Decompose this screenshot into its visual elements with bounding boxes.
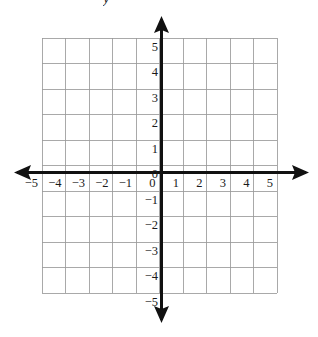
y-tick-label: 3 xyxy=(152,91,158,105)
y-tick-label: 1 xyxy=(152,142,158,156)
y-tick-label: −2 xyxy=(145,218,158,232)
y-axis-label-clipped: y xyxy=(103,0,125,7)
y-tick-label: −5 xyxy=(145,295,158,309)
x-tick-label: 3 xyxy=(220,176,226,190)
x-tick-label: −5 xyxy=(25,176,38,190)
x-tick-label: 5 xyxy=(267,176,273,190)
y-tick-label: 5 xyxy=(152,40,158,54)
x-tick-label: −2 xyxy=(95,176,108,190)
axes-group xyxy=(14,16,309,323)
y-tick-label: −3 xyxy=(145,244,158,258)
y-tick-label: −1 xyxy=(145,193,158,207)
x-axis-tick-labels: −5−4−3−2−1012345 xyxy=(25,176,273,190)
y-tick-label: −4 xyxy=(145,269,159,283)
x-tick-label: −4 xyxy=(48,176,62,190)
x-tick-label: −3 xyxy=(72,176,85,190)
y-tick-label: 0 xyxy=(152,167,158,181)
coordinate-plane-figure: −5−4−3−2−1012345 543210−1−2−3−4−5 y xyxy=(0,0,318,337)
x-tick-label: 1 xyxy=(173,176,179,190)
x-tick-label: −1 xyxy=(119,176,132,190)
y-axis-label-text: y xyxy=(103,0,110,6)
x-tick-label: 2 xyxy=(196,176,202,190)
y-tick-label: 4 xyxy=(152,65,159,79)
y-tick-label: 2 xyxy=(152,116,158,130)
x-tick-label: 4 xyxy=(243,176,250,190)
y-axis-tick-labels: 543210−1−2−3−4−5 xyxy=(145,40,159,309)
coordinate-plane-svg: −5−4−3−2−1012345 543210−1−2−3−4−5 xyxy=(0,0,318,337)
